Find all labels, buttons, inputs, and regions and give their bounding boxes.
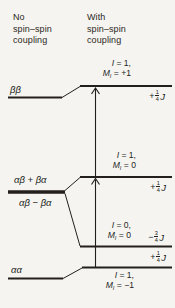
transition-arrow-upper	[92, 88, 100, 177]
quantum-label-m0-triplet: I = 1, MI = 0	[113, 151, 136, 171]
connector-triplet-m0	[65, 178, 80, 191]
quantum-label-m-plus1: I = 1, MI = +1	[103, 59, 131, 79]
energy-level-diagram: No spin–spin coupling With spin–spin cou…	[0, 0, 175, 308]
state-label-ab-minus-ba: αβ − βα	[19, 197, 52, 208]
energy-shift-singlet: −34J	[148, 231, 164, 243]
quantum-label-m0-singlet: I = 0, MI = 0	[108, 221, 131, 241]
levels-and-arrows-graphic	[0, 0, 175, 308]
connector-singlet	[65, 194, 80, 247]
energy-shift-top: +14J	[149, 90, 165, 102]
connector-bb	[62, 87, 80, 98]
state-label-bb: ββ	[10, 84, 21, 95]
state-label-ab-plus-ba: αβ + βα	[14, 174, 47, 185]
transition-arrow-lower	[92, 179, 100, 268]
state-label-aa: αα	[11, 264, 22, 275]
quantum-label-m-minus1: I = 1, MI = −1	[106, 271, 134, 291]
connector-aa	[63, 268, 82, 279]
energy-shift-bottom: +14J	[150, 251, 166, 263]
energy-shift-middle: +14J	[150, 181, 166, 193]
